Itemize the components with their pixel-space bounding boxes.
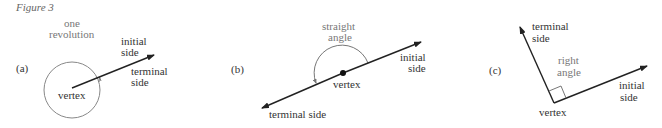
panel-c: (c) terminal side right angle initial si… [489, 20, 647, 118]
panel-a-terminal-line2: side [131, 76, 149, 88]
panel-b-terminal-ray [262, 73, 343, 108]
panel-c-angle-name-line2: angle [557, 66, 581, 78]
panel-b-terminal-label: terminal side [269, 108, 326, 120]
panel-a: (a) one revolution initial side terminal… [16, 17, 168, 118]
figure-title: Figure 3 [15, 1, 54, 13]
panel-c-terminal-line1: terminal [532, 20, 569, 32]
panel-a-vertex-label: vertex [58, 89, 86, 101]
panel-a-angle-name-line2: revolution [49, 28, 95, 40]
panel-b: (b) straight angle initial side vertex t… [231, 20, 426, 120]
panel-a-label: (a) [16, 62, 29, 75]
panel-c-angle-name-line1: right [558, 54, 579, 66]
panel-b-label: (b) [231, 63, 244, 76]
panel-b-vertex-label: vertex [333, 78, 361, 90]
panel-b-angle-name-line2: angle [328, 31, 352, 43]
panel-b-initial-line2: side [408, 62, 426, 74]
panel-c-initial-line2: side [620, 91, 638, 103]
panel-c-terminal-line2: side [532, 32, 550, 44]
figure-3: Figure 3 (a) one revolution initial side… [0, 0, 662, 128]
panel-c-initial-line1: initial [619, 79, 645, 91]
vertex-dot [340, 70, 346, 76]
panel-c-vertex-label: vertex [539, 106, 567, 118]
panel-c-label: (c) [489, 64, 502, 77]
panel-a-initial-line2: side [121, 46, 139, 58]
